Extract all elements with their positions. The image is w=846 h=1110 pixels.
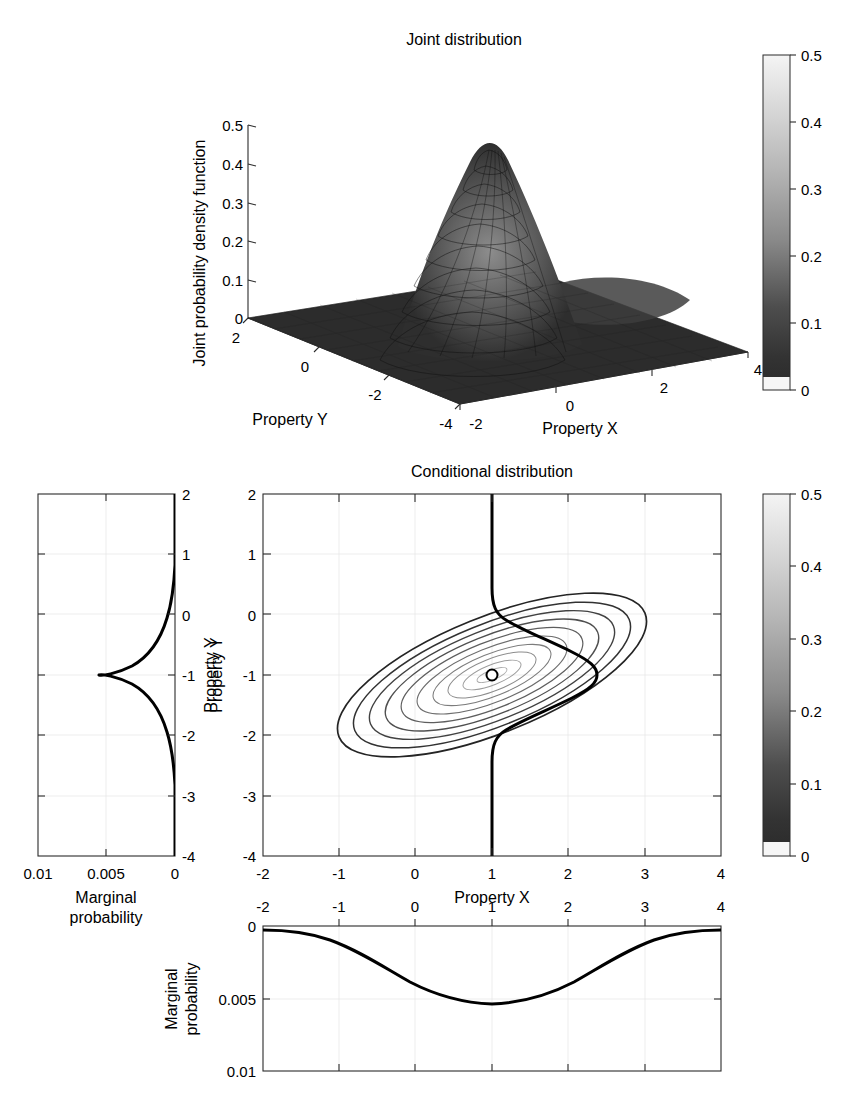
marginal-y-label-line1: Marginal [75, 889, 136, 906]
colorbar-top[interactable]: 0.5 0.4 0.3 0.2 0.1 0 [763, 47, 822, 399]
joint-ztick-0: 0.5 [222, 117, 243, 134]
conditional-ytick-2: 0 [248, 607, 256, 624]
conditional-xtick-4: 2 [564, 865, 572, 882]
joint-xtick-3: 4 [754, 361, 762, 378]
colorbar-bottom-tick-2: 0.3 [801, 631, 822, 648]
marginal-x-xtick-2: 0 [411, 898, 419, 915]
marginal-x-xtick-3: 1 [488, 898, 496, 915]
conditional-xtick-3: 1 [488, 865, 496, 882]
colorbar-bottom-tick-1: 0.4 [801, 558, 822, 575]
conditional-xtick-6: 4 [717, 865, 725, 882]
colorbar-bottom-tick-0: 0.5 [801, 486, 822, 503]
colorbar-top-zero-band [763, 377, 790, 390]
marginal-y-ytick-2: 0 [182, 607, 190, 624]
joint-xtick-0: -2 [469, 415, 482, 432]
marginal-y-ytick-3: -1 [182, 667, 195, 684]
marginal-y-ytick-5: -3 [182, 788, 195, 805]
colorbar-top-tick-1: 0.4 [801, 114, 822, 131]
marginal-y-xtick-2: 0 [171, 865, 179, 882]
joint-ytick-1: 0 [301, 358, 309, 375]
joint-ytick-0: 2 [232, 329, 240, 346]
conditional-xtick-1: -1 [332, 865, 345, 882]
marginal-x-gridlines [263, 926, 721, 1071]
figure-canvas: Joint distribution Joint probability den… [0, 0, 846, 1110]
colorbar-top-ticks [790, 55, 796, 390]
joint-xtick-2: 2 [660, 379, 668, 396]
joint-xaxis-label: Property X [542, 420, 618, 437]
colorbar-bottom-ticks [790, 494, 796, 856]
marginal-x-xtick-4: 2 [564, 898, 572, 915]
joint-ytick-3: -4 [439, 415, 452, 432]
marginal-x-label-line2: probability [183, 963, 200, 1036]
joint-distribution-panel: Joint distribution Joint probability den… [191, 31, 762, 437]
marginal-x-panel: -2 -1 0 1 2 3 4 0 0.005 0.01 Marginal pr… [163, 898, 725, 1080]
conditional-ytick-3: -1 [243, 667, 256, 684]
marginal-y-axis-label: Property Y [202, 637, 219, 713]
colorbar-bottom-tick-5: 0 [801, 848, 809, 865]
colorbar-bottom-tick-4: 0.1 [801, 776, 822, 793]
joint-xtick-1: 0 [566, 397, 574, 414]
marginal-y-ytick-6: -4 [182, 848, 195, 865]
joint-surface-mesh [248, 143, 748, 404]
colorbar-bottom[interactable]: 0.5 0.4 0.3 0.2 0.1 0 [763, 486, 822, 865]
conditional-xtick-0: -2 [256, 865, 269, 882]
joint-zaxis-ticks [248, 125, 256, 320]
marginal-y-ytick-0: 2 [182, 486, 190, 503]
conditional-title: Conditional distribution [411, 463, 573, 480]
marginal-x-ytick-1: 0.005 [218, 991, 256, 1008]
conditional-distribution-panel: Conditional distribution [208, 463, 725, 906]
conditional-ytick-5: -3 [243, 788, 256, 805]
colorbar-bottom-tick-3: 0.2 [801, 703, 822, 720]
marginal-y-xtick-1: 0.005 [87, 865, 125, 882]
conditional-xtick-5: 3 [641, 865, 649, 882]
marginal-y-xtick-0: 0.01 [23, 865, 52, 882]
conditional-xtick-2: 0 [411, 865, 419, 882]
conditioning-point-marker[interactable] [487, 670, 498, 681]
conditional-ytick-1: 1 [248, 546, 256, 563]
joint-ytick-2: -2 [368, 386, 381, 403]
colorbar-top-tick-3: 0.2 [801, 248, 822, 265]
marginal-x-xtick-1: -1 [332, 898, 345, 915]
marginal-y-label-line2: probability [70, 909, 143, 926]
joint-ztick-5: 0 [235, 310, 243, 327]
colorbar-top-tick-0: 0.5 [801, 47, 822, 64]
marginal-x-ytick-2: 0.01 [227, 1063, 256, 1080]
joint-ztick-3: 0.2 [222, 233, 243, 250]
marginal-x-ytick-0: 0 [248, 918, 256, 935]
conditional-ytick-6: -4 [243, 848, 256, 865]
joint-title: Joint distribution [406, 31, 522, 48]
marginal-y-panel: 2 1 0 -1 -2 -3 -4 Property Y 0.01 0.005 … [23, 486, 219, 926]
figure-root: Joint distribution Joint probability den… [0, 0, 846, 1110]
joint-yaxis-label: Property Y [252, 411, 328, 428]
colorbar-top-tick-2: 0.3 [801, 181, 822, 198]
colorbar-top-tick-4: 0.1 [801, 315, 822, 332]
marginal-y-ytick-4: -2 [182, 727, 195, 744]
colorbar-top-gradient [763, 55, 790, 390]
marginal-x-xtick-0: -2 [256, 898, 269, 915]
marginal-y-ytick-1: 1 [182, 546, 190, 563]
marginal-x-xtick-6: 4 [717, 898, 725, 915]
colorbar-top-tick-5: 0 [801, 382, 809, 399]
conditional-ytick-4: -2 [243, 727, 256, 744]
conditional-ytick-0: 2 [248, 486, 256, 503]
joint-zaxis-label: Joint probability density function [191, 140, 208, 367]
marginal-x-xtick-5: 3 [641, 898, 649, 915]
joint-ztick-1: 0.4 [222, 156, 243, 173]
colorbar-bottom-gradient [763, 494, 790, 856]
joint-ztick-4: 0.1 [222, 272, 243, 289]
joint-ztick-2: 0.3 [222, 195, 243, 212]
marginal-x-label-line1: Marginal [163, 968, 180, 1029]
surface-peak-body [398, 143, 582, 361]
colorbar-bottom-zero-band [763, 842, 790, 856]
